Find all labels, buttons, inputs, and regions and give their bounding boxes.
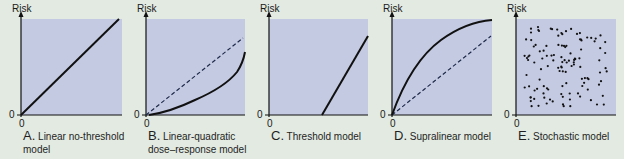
y-axis-label: Risk: [260, 3, 279, 14]
scatter-point: [565, 30, 567, 32]
scatter-point: [559, 70, 561, 72]
scatter-point: [546, 55, 548, 57]
panel-letter: A.: [23, 128, 35, 143]
scatter-point: [602, 95, 604, 97]
scatter-point: [595, 38, 597, 40]
scatter-point: [569, 98, 571, 100]
scatter-point: [564, 46, 566, 48]
panel-letter: D.: [394, 128, 407, 143]
scatter-point: [526, 57, 528, 59]
scatter-point: [550, 55, 552, 57]
scatter-point: [530, 39, 532, 41]
scatter-point: [530, 96, 532, 98]
scatter-point: [552, 59, 554, 61]
scatter-point: [584, 77, 586, 79]
scatter-point: [531, 105, 533, 107]
scatter-point: [571, 65, 573, 67]
y-tick-zero: 0: [380, 109, 386, 120]
scatter-point: [536, 88, 538, 90]
scatter-point: [540, 68, 542, 70]
panel-d-supralinear: Risk 0 0 D. Supralinear model: [371, 0, 495, 159]
y-tick-zero: 0: [257, 109, 263, 120]
scatter-point: [576, 33, 578, 35]
scatter-point: [569, 92, 571, 94]
y-axis-label: Risk: [383, 3, 402, 14]
scatter-point: [562, 70, 564, 72]
scatter-point: [580, 39, 582, 41]
panel-caption: B. Linear-quadratic dose–response model: [148, 129, 246, 156]
panel-letter: B.: [148, 128, 160, 143]
panel-caption: D. Supralinear model: [394, 129, 491, 143]
panel-e-stochastic: Risk 0 0 E. Stochastic model: [495, 0, 619, 159]
panel-caption: A. Linear no-threshold model: [23, 129, 124, 156]
scatter-point: [566, 61, 568, 63]
scatter-point: [569, 105, 571, 107]
scatter-point: [581, 85, 583, 87]
plot-area: [392, 19, 492, 115]
scatter-point: [568, 60, 570, 62]
scatter-point: [537, 29, 539, 31]
scatter-point: [547, 65, 549, 67]
scatter-point: [561, 85, 563, 87]
caption-line-2: dose–response model: [148, 144, 246, 155]
scatter-point: [534, 89, 536, 91]
scatter-point: [590, 99, 592, 101]
scatter-point: [581, 78, 583, 80]
y-tick-zero: 0: [134, 109, 140, 120]
scatter-point: [546, 102, 548, 104]
scatter-point: [539, 79, 541, 81]
scatter-point: [599, 47, 601, 49]
scatter-point: [530, 28, 532, 30]
figure: Risk 0 0 A. Linear no-threshold model Ri…: [0, 0, 624, 159]
scatter-point: [533, 45, 535, 47]
scatter-point: [565, 82, 567, 84]
scatter-point: [603, 104, 605, 106]
scatter-point: [574, 58, 576, 60]
scatter-point: [560, 32, 562, 34]
scatter-point: [525, 38, 527, 40]
scatter-point: [565, 71, 567, 73]
panel-caption: C. Threshold model: [271, 129, 361, 143]
scatter-point: [527, 59, 529, 61]
scatter-point: [606, 70, 608, 72]
y-axis-label: Risk: [507, 3, 526, 14]
plot-area: [269, 19, 368, 115]
scatter-point: [596, 103, 598, 105]
scatter-point: [560, 56, 562, 58]
scatter-point: [557, 44, 559, 46]
caption-line-1: Supralinear model: [410, 131, 491, 142]
scatter-point: [530, 31, 532, 33]
scatter-point: [573, 61, 575, 63]
scatter-point: [561, 45, 563, 47]
scatter-point: [604, 52, 606, 54]
caption-line-1: Threshold model: [287, 131, 361, 142]
scatter-point: [605, 67, 607, 69]
scatter-point: [542, 92, 544, 94]
scatter-point: [546, 87, 548, 89]
scatter-point: [556, 29, 558, 31]
scatter-point: [535, 44, 537, 46]
scatter-point: [541, 57, 543, 59]
scatter-point: [578, 57, 580, 59]
scatter-point: [562, 96, 564, 98]
scatter-point: [561, 61, 563, 63]
scatter-point: [586, 77, 588, 79]
scatter-point: [543, 85, 545, 87]
scatter-point: [533, 61, 535, 63]
scatter-point: [563, 105, 565, 107]
scatter-point: [583, 82, 585, 84]
scatter-point: [564, 59, 566, 61]
scatter-point: [560, 66, 562, 68]
scatter-point: [553, 54, 555, 56]
scatter-point: [552, 100, 554, 102]
scatter-point: [569, 52, 571, 54]
scatter-point: [580, 48, 582, 50]
scatter-point: [570, 28, 572, 30]
scatter-point: [545, 45, 547, 47]
caption-line-1: Stochastic model: [533, 131, 609, 142]
scatter-point: [560, 93, 562, 95]
scatter-point: [598, 84, 600, 86]
scatter-point: [537, 26, 539, 28]
scatter-point: [573, 63, 575, 65]
caption-line-1: Linear no-threshold: [38, 131, 124, 142]
